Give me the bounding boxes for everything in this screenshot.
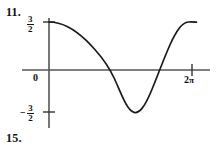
cosine-curve <box>49 22 197 113</box>
y-axis-label-positive-three-halves: 3 2 <box>27 15 34 34</box>
problem-number-15: 15. <box>6 131 22 146</box>
fraction-denominator: 2 <box>27 25 34 34</box>
pi-symbol: π <box>189 75 194 85</box>
figure-container: 11. 3 2 − 3 2 0 2π 15. <box>0 0 220 150</box>
x-axis-label-two-pi: 2π <box>184 75 194 85</box>
y-axis-label-negative-three-halves: − 3 2 <box>20 104 34 123</box>
fraction-denominator: 2 <box>27 114 34 123</box>
minus-sign: − <box>20 108 26 118</box>
origin-label: 0 <box>33 73 38 83</box>
